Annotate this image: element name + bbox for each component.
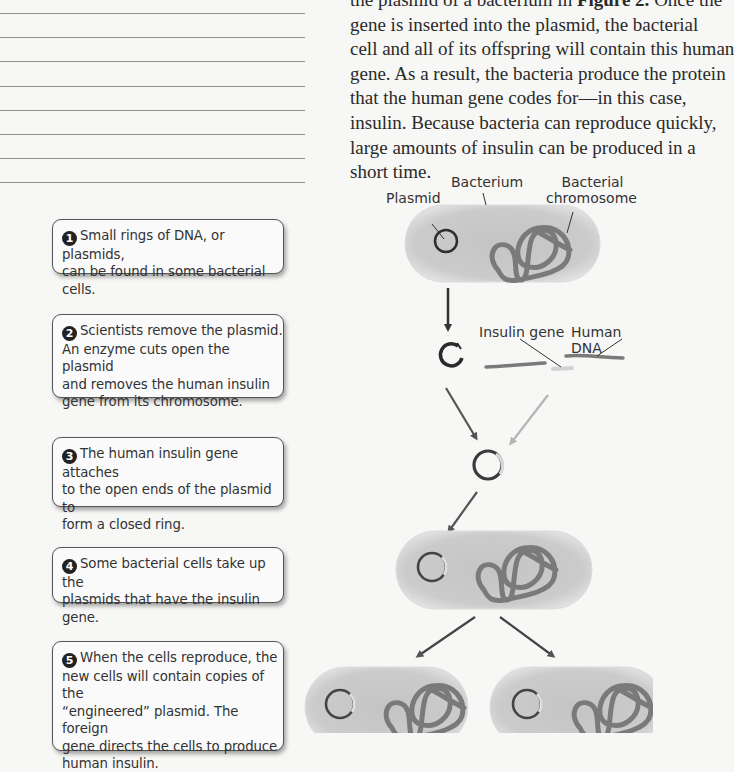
recombinant-plasmid-icon bbox=[474, 451, 503, 479]
label-plasmid: Plasmid bbox=[386, 190, 441, 206]
label-bacterium: Bacterium bbox=[451, 174, 523, 190]
label-line: chromosome bbox=[546, 190, 637, 206]
label-insulin-gene: Insulin gene bbox=[479, 324, 564, 340]
insulin-gene-icon bbox=[553, 368, 572, 369]
step-text-line: human insulin. bbox=[62, 755, 283, 772]
daughter-bacterium-left bbox=[305, 667, 468, 733]
bacterium-original bbox=[405, 193, 600, 282]
bacterium-transformed bbox=[396, 531, 592, 609]
label-line: Bacterial bbox=[548, 174, 637, 190]
human-dna-left-icon bbox=[486, 363, 545, 367]
daughter-bacterium-right bbox=[490, 667, 653, 733]
label-human-dna: Human DNA bbox=[571, 324, 653, 356]
label-bacterial-chromosome: Bacterial chromosome bbox=[548, 174, 637, 206]
step-text-line: gene directs the cells to produce bbox=[62, 738, 283, 755]
